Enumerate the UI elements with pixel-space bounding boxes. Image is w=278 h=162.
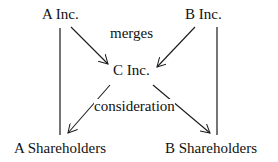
- node-a-inc: A Inc.: [42, 7, 79, 22]
- node-b-inc: B Inc.: [185, 7, 222, 22]
- arrow-a-inc-to-c-inc: [71, 27, 108, 64]
- node-c-inc: C Inc.: [113, 63, 150, 78]
- merger-diagram: A Inc. B Inc. merges C Inc. consideratio…: [0, 0, 278, 162]
- edge-label-merges: merges: [110, 26, 153, 41]
- node-b-shareholders: B Shareholders: [165, 141, 257, 156]
- node-a-shareholders: A Shareholders: [14, 141, 106, 156]
- edge-label-consideration: consideration: [94, 99, 175, 114]
- arrow-b-inc-to-c-inc: [157, 27, 195, 67]
